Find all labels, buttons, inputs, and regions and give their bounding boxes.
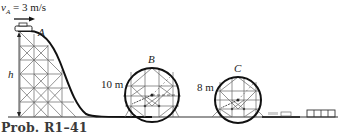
exit-platform [262,110,338,117]
velocity-arrow-icon [14,17,35,22]
tower-truss [20,32,76,117]
point-a-label: A [38,26,45,38]
velocity-subscript: A [6,8,10,16]
velocity-label: vA = 3 m/s [1,1,46,16]
cart-icon [15,23,32,31]
velocity-value: = 3 m/s [13,1,46,13]
height-label: h [8,68,14,80]
point-c-label: C [234,62,241,74]
roller-coaster-figure: vA = 3 m/s A h B 10 m C 8 m Prob. R1–41 [0,0,345,138]
figure-caption: Prob. R1–41 [1,120,88,135]
roller-coaster-diagram [0,0,345,138]
loop-b [123,68,181,122]
loop-b-radius-label: 10 m [101,78,123,90]
loop-c [212,77,264,123]
point-b-label: B [148,53,155,65]
loop-c-radius-label: 8 m [197,81,214,93]
